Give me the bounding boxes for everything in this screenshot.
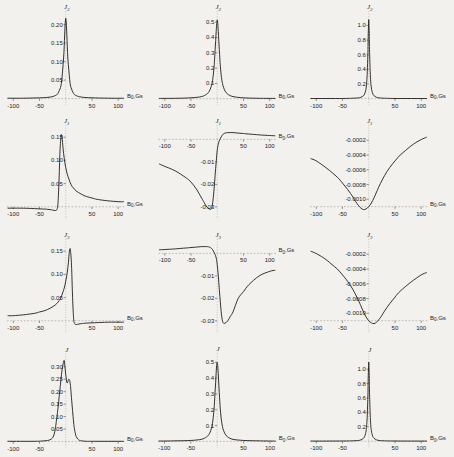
x-tick-label: 100 (416, 211, 427, 217)
x-tick-label: -50 (338, 103, 347, 109)
plot-canvas: -100-50501000.050.100.150.200.250.30JB0,… (0, 342, 151, 457)
y-tick-label: -0.0006 (345, 281, 366, 287)
x-tick-label: -50 (35, 446, 44, 452)
plot-title: J3 (367, 231, 373, 240)
plot-j3-positive-peak: -100-50501000.050.100.15J3B0,Gs (0, 228, 151, 342)
y-tick-label: 0.6 (357, 395, 366, 401)
plot-canvas: -100-50501000.050.100.150.20J2B0,Gs (0, 0, 151, 114)
y-tick-label: 0.2 (357, 81, 366, 87)
x-tick-label: 100 (416, 445, 427, 451)
y-tick-label: 0.3 (206, 391, 215, 397)
y-tick-label: 0.15 (51, 40, 63, 46)
y-tick-label: -0.0002 (345, 137, 366, 143)
x-axis-label: B0,Gs (430, 435, 446, 443)
x-tick-label: -50 (187, 143, 196, 149)
plot-j-double-peak: -100-50501000.050.100.150.200.250.30JB0,… (0, 342, 151, 457)
x-axis-label: B0,Gs (430, 201, 446, 209)
y-tick-label: 0.05 (51, 426, 63, 432)
x-tick-label: -50 (187, 257, 196, 263)
x-tick-label: 100 (416, 325, 427, 331)
y-tick-label: 0.5 (206, 19, 215, 25)
plot-title: J2 (64, 3, 70, 12)
y-tick-label: 0.8 (357, 381, 366, 387)
plot-j2-sharp: -100-50501000.20.40.60.81.0J2B0,Gs (303, 0, 454, 114)
y-tick-label: 0.8 (357, 37, 366, 43)
y-tick-label: 0.15 (51, 248, 63, 254)
x-tick-label: -50 (35, 211, 44, 217)
x-tick-label: -100 (7, 325, 20, 331)
figure-page: -100-50501000.050.100.150.20J2B0,Gs -100… (0, 0, 454, 457)
y-tick-label: 0.10 (51, 157, 63, 163)
x-tick-label: -100 (7, 446, 20, 452)
y-tick-label: -0.02 (201, 295, 215, 301)
y-tick-label: 1.0 (357, 366, 366, 372)
plot-canvas: -100-5050100-0.0002-0.0004-0.0006-0.0008… (303, 114, 454, 228)
x-tick-label: 50 (392, 325, 399, 331)
x-tick-label: -100 (310, 211, 323, 217)
plot-title: J2 (367, 3, 373, 12)
plot-j1-positive-peak: -100-50501000.050.100.15J1B0,Gs (0, 114, 151, 228)
plot-canvas: -100-5050100-0.0002-0.0004-0.0006-0.0008… (303, 228, 454, 342)
y-tick-label: 0.15 (51, 401, 63, 407)
y-tick-label: -0.02 (201, 181, 215, 187)
y-tick-label: 0.1 (206, 80, 215, 86)
plot-j-sharp: -100-50501000.20.40.60.81.0JB0,Gs (303, 342, 454, 457)
y-tick-label: -0.03 (201, 318, 215, 324)
x-axis-label: B0,Gs (279, 133, 295, 141)
y-tick-label: -0.0008 (345, 182, 366, 188)
x-axis-label: B0,Gs (127, 315, 143, 323)
x-tick-label: 100 (265, 103, 276, 109)
x-tick-label: 100 (265, 143, 276, 149)
x-axis-label: B0,Gs (430, 315, 446, 323)
y-tick-label: 0.10 (51, 271, 63, 277)
y-tick-label: 1.0 (357, 22, 366, 28)
x-tick-label: -50 (35, 103, 44, 109)
x-tick-label: -100 (159, 257, 172, 263)
y-tick-label: 0.05 (51, 181, 63, 187)
y-tick-label: -0.01 (201, 273, 215, 279)
plot-title: J (368, 346, 372, 354)
plot-j-medium: -100-50501000.10.20.30.40.5JB0,Gs (151, 342, 303, 457)
x-tick-label: -50 (186, 445, 195, 451)
x-tick-label: -100 (7, 211, 20, 217)
x-tick-label: 50 (392, 103, 399, 109)
plot-canvas: -100-50501000.20.40.60.81.0J2B0,Gs (303, 0, 454, 114)
x-tick-label: -100 (310, 445, 323, 451)
plot-canvas: -100-50501000.050.100.15J3B0,Gs (0, 228, 151, 342)
x-tick-label: -100 (310, 325, 323, 331)
plot-j1-broad-valley: -100-5050100-0.0002-0.0004-0.0006-0.0008… (303, 114, 454, 228)
plot-j1-negative-dip: -100-5050100-0.01-0.02-0.03J1B0,Gs (151, 114, 303, 228)
y-tick-label: 0.30 (51, 364, 63, 370)
x-tick-label: 100 (416, 103, 427, 109)
x-tick-label: 100 (113, 211, 124, 217)
x-tick-label: 100 (265, 257, 276, 263)
plot-title: J1 (64, 117, 70, 126)
x-axis-label: B0,Gs (127, 436, 143, 444)
x-tick-label: -100 (158, 445, 171, 451)
x-tick-label: 100 (113, 325, 124, 331)
x-tick-label: 50 (89, 211, 96, 217)
y-tick-label: -0.0002 (345, 251, 366, 257)
y-tick-label: 0.4 (206, 34, 215, 40)
y-tick-label: 0.4 (357, 66, 366, 72)
x-tick-label: -100 (310, 103, 323, 109)
plot-title: J (65, 346, 69, 354)
plot-title: J3 (64, 231, 70, 240)
x-tick-label: 50 (89, 103, 96, 109)
plot-canvas: -100-50501000.20.40.60.81.0JB0,Gs (303, 342, 454, 457)
y-tick-label: 0.20 (51, 22, 63, 28)
plot-canvas: -100-50501000.10.20.30.40.5JB0,Gs (151, 342, 303, 457)
plots-grid: -100-50501000.050.100.150.20J2B0,Gs -100… (0, 0, 454, 457)
plot-j3-broad-valley: -100-5050100-0.0002-0.0004-0.0006-0.0008… (303, 228, 454, 342)
y-tick-label: 0.2 (357, 424, 366, 430)
y-tick-label: 0.4 (357, 409, 366, 415)
plot-canvas: -100-50501000.050.100.15J1B0,Gs (0, 114, 151, 228)
x-axis-label: B0,Gs (127, 93, 143, 101)
y-tick-label: 0.4 (206, 375, 215, 381)
plot-j2-narrow: -100-50501000.050.100.150.20J2B0,Gs (0, 0, 151, 114)
plot-title: J1 (215, 117, 221, 126)
x-tick-label: -50 (338, 325, 347, 331)
x-tick-label: 50 (240, 103, 247, 109)
y-tick-label: 0.10 (51, 59, 63, 65)
x-tick-label: 50 (392, 445, 399, 451)
